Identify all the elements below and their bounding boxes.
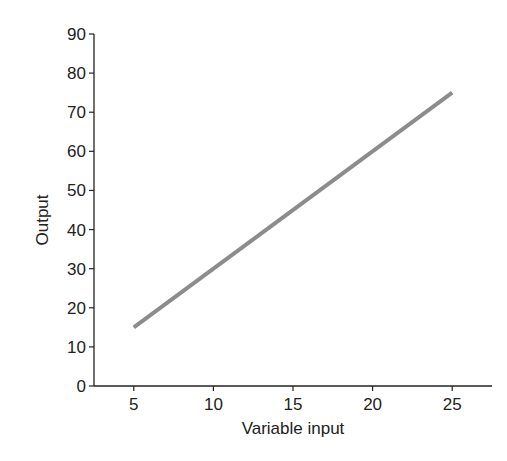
y-tick-label: 10 xyxy=(67,338,86,357)
x-tick-label: 20 xyxy=(363,395,382,414)
data-line xyxy=(134,93,452,328)
line-chart: 0102030405060708090510152025 Variable in… xyxy=(0,0,507,461)
y-tick-label: 20 xyxy=(67,299,86,318)
x-tick-label: 5 xyxy=(129,395,138,414)
y-tick-label: 50 xyxy=(67,181,86,200)
y-tick-label: 70 xyxy=(67,103,86,122)
y-tick-label: 90 xyxy=(67,25,86,44)
x-axis-title: Variable input xyxy=(242,419,345,438)
plot-area: 0102030405060708090510152025 xyxy=(67,25,492,414)
y-axis-title: Output xyxy=(33,194,52,245)
y-tick-label: 30 xyxy=(67,260,86,279)
y-tick-label: 0 xyxy=(77,377,86,396)
y-tick-label: 80 xyxy=(67,64,86,83)
x-tick-label: 15 xyxy=(284,395,303,414)
x-tick-label: 25 xyxy=(443,395,462,414)
x-tick-label: 10 xyxy=(204,395,223,414)
y-tick-label: 60 xyxy=(67,142,86,161)
y-tick-label: 40 xyxy=(67,221,86,240)
